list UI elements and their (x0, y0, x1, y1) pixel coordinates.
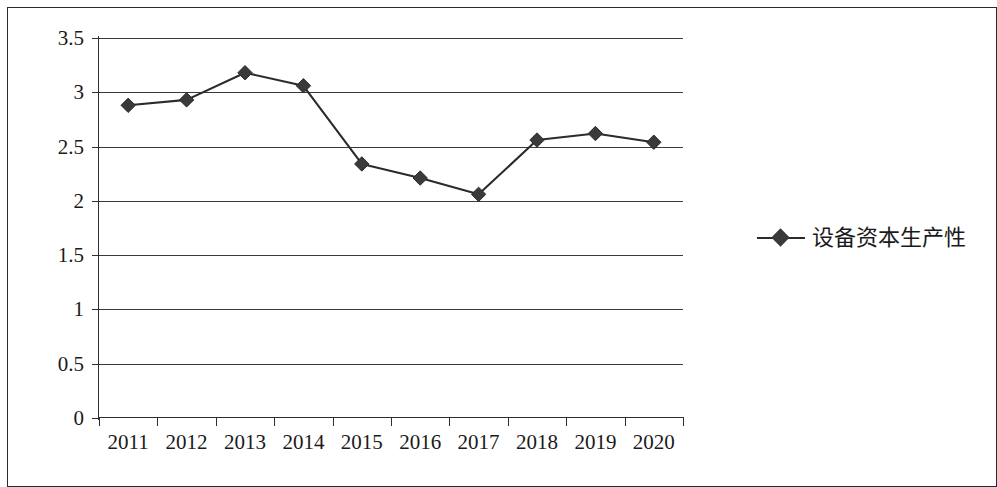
data-point-marker (179, 93, 193, 107)
legend-line-diamond-icon (757, 228, 805, 248)
chart-legend: 设备资本生产性 (757, 227, 966, 249)
data-point-marker (121, 98, 135, 112)
legend-label: 设备资本生产性 (812, 227, 966, 249)
series-line-equipment-capital-productivity (128, 73, 654, 195)
data-point-marker (413, 171, 427, 185)
data-point-marker (647, 135, 661, 149)
data-point-marker (588, 126, 602, 140)
data-point-marker (238, 66, 252, 80)
series-markers (121, 66, 661, 202)
